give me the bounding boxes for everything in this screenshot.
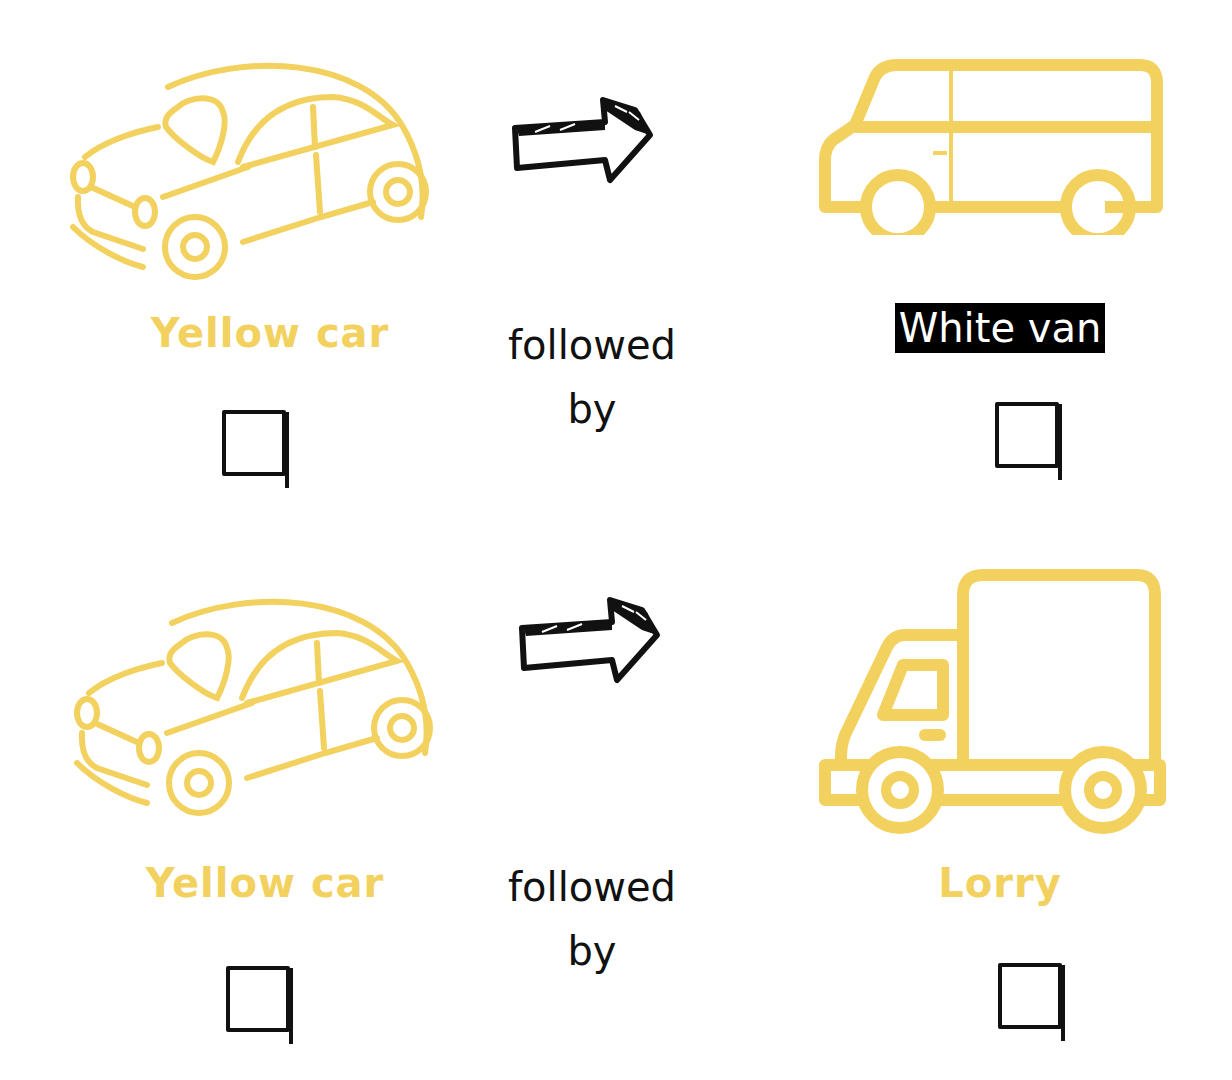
right-vehicle-label: White van: [890, 305, 1110, 351]
right-vehicle-checkbox[interactable]: [995, 402, 1059, 468]
van-icon: [815, 55, 1165, 235]
highlighted-label: White van: [895, 303, 1106, 353]
car-icon: [68, 62, 433, 287]
car-icon: [72, 598, 437, 823]
right-vehicle-checkbox[interactable]: [998, 963, 1062, 1029]
left-vehicle-checkbox[interactable]: [222, 410, 286, 476]
connector-line-1: followed: [482, 313, 702, 377]
right-vehicle-label: Lorry: [890, 860, 1110, 906]
lorry-icon: [815, 565, 1170, 850]
arrow-right-icon: [505, 85, 665, 195]
arrow-right-icon: [512, 585, 672, 695]
left-vehicle-label: Yellow car: [145, 860, 385, 906]
connector-line-1: followed: [482, 855, 702, 919]
connector-text: followed by: [482, 855, 702, 983]
connector-text: followed by: [482, 313, 702, 441]
connector-line-2: by: [482, 377, 702, 441]
connector-line-2: by: [482, 919, 702, 983]
left-vehicle-checkbox[interactable]: [226, 966, 290, 1032]
left-vehicle-label: Yellow car: [150, 310, 390, 356]
